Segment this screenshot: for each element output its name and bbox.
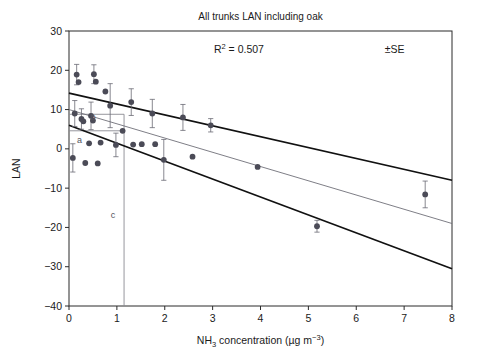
lower-confidence-line <box>69 125 452 268</box>
point-marker <box>93 79 99 85</box>
annotations: R2 = 0.507±SE <box>214 42 404 55</box>
point-marker <box>98 140 104 146</box>
data-point <box>72 101 78 127</box>
data-point <box>80 118 86 124</box>
point-marker <box>130 142 136 148</box>
y-tick-label: 10 <box>50 103 62 115</box>
data-point <box>190 154 196 160</box>
point-marker <box>107 103 113 109</box>
r-squared: R2 = 0.507 <box>214 42 264 55</box>
data-point <box>139 141 145 147</box>
y-axis-title: LAN <box>10 158 22 178</box>
data-point <box>149 99 155 127</box>
data-point <box>98 140 104 146</box>
chart-figure: All trunks LAN including oak−40−30−20−10… <box>0 0 478 356</box>
data-point <box>208 119 214 132</box>
point-marker <box>95 160 101 166</box>
x-tick-label: 0 <box>66 312 72 324</box>
data-point <box>70 144 76 172</box>
marker-c: c <box>111 210 116 220</box>
point-marker <box>120 128 126 134</box>
y-tick-label: 20 <box>50 64 62 76</box>
point-marker <box>102 89 108 95</box>
x-tick-label: 6 <box>353 312 359 324</box>
data-point <box>152 141 158 147</box>
y-tick-label: −20 <box>44 221 62 233</box>
point-marker <box>76 79 82 85</box>
data-point <box>120 128 126 134</box>
data-point <box>102 89 108 95</box>
point-marker <box>72 111 78 117</box>
data-point <box>314 220 320 232</box>
x-tick-label: 7 <box>401 312 407 324</box>
x-tick-label: 4 <box>258 312 264 324</box>
se-note: ±SE <box>385 43 405 55</box>
x-tick-label: 3 <box>210 312 216 324</box>
x-axis-title: NH3 concentration (µg m−3) <box>197 333 324 349</box>
point-marker <box>149 111 155 117</box>
x-tick-label: 5 <box>305 312 311 324</box>
data-point <box>76 79 82 85</box>
x-axis: 012345678 <box>66 306 455 324</box>
point-marker <box>208 122 214 128</box>
point-marker <box>255 164 261 170</box>
point-marker <box>70 155 76 161</box>
point-marker <box>161 157 167 163</box>
data-point <box>93 79 99 85</box>
point-marker <box>128 99 134 105</box>
data-point <box>161 139 167 180</box>
point-marker <box>180 115 186 121</box>
point-marker <box>86 140 92 146</box>
point-marker <box>80 118 86 124</box>
scatter-plot: All trunks LAN including oak−40−30−20−10… <box>0 0 478 356</box>
data-point <box>130 142 136 148</box>
point-marker <box>113 142 119 148</box>
point-marker <box>139 141 145 147</box>
data-point <box>128 89 134 116</box>
y-tick-label: 30 <box>50 25 62 37</box>
y-tick-label: −10 <box>44 182 62 194</box>
y-tick-label: −30 <box>44 260 62 272</box>
point-marker <box>91 71 97 77</box>
marker-a: a <box>77 135 82 145</box>
fit-lines <box>69 93 452 269</box>
point-marker <box>74 72 80 78</box>
x-tick-label: 2 <box>162 312 168 324</box>
y-tick-label: −40 <box>44 300 62 312</box>
point-marker <box>314 223 320 229</box>
data-point <box>180 104 186 130</box>
chart-title: All trunks LAN including oak <box>198 11 324 22</box>
data-point <box>422 181 428 208</box>
point-marker <box>82 160 88 166</box>
point-marker <box>152 141 158 147</box>
y-tick-label: 0 <box>56 142 62 154</box>
data-point <box>255 164 261 170</box>
x-tick-label: 8 <box>449 312 455 324</box>
y-axis: −40−30−20−100102030 <box>44 25 69 312</box>
marker-b: b <box>90 112 95 122</box>
point-marker <box>422 192 428 198</box>
x-tick-label: 1 <box>114 312 120 324</box>
data-point <box>95 160 101 166</box>
data-point <box>82 160 88 166</box>
plot-frame <box>69 31 452 306</box>
point-marker <box>190 154 196 160</box>
data-point <box>86 140 92 146</box>
data-point <box>113 133 119 157</box>
